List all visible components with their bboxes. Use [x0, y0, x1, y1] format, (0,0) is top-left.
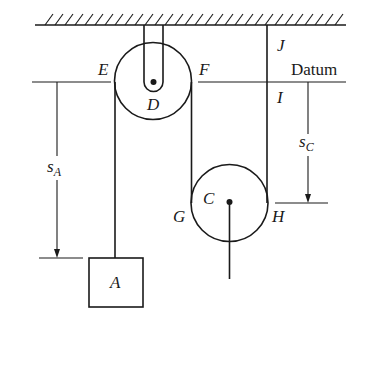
pulley-d-axle	[151, 79, 157, 85]
datum-label: Datum	[291, 60, 337, 79]
label-f: F	[198, 60, 210, 79]
label-c: C	[203, 189, 215, 208]
ceiling	[35, 14, 346, 25]
label-h: H	[271, 207, 286, 226]
label-g: G	[173, 207, 185, 226]
label-sa: sA	[47, 157, 62, 179]
ceiling-hatching	[45, 14, 343, 25]
pulley-c	[191, 165, 268, 280]
label-e: E	[97, 60, 109, 79]
dimension-sa	[39, 82, 83, 258]
label-a: A	[109, 273, 121, 292]
label-d: D	[146, 95, 160, 114]
label-sc: sC	[299, 132, 315, 154]
pulley-diagram: E F D J Datum I C G H A sA sC	[0, 0, 367, 382]
label-i: I	[276, 88, 284, 107]
label-j: J	[277, 36, 286, 55]
